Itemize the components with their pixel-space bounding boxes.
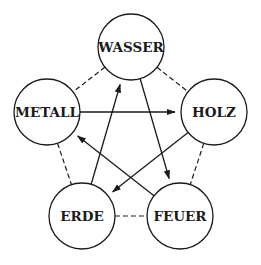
node-holz: HOLZ [181, 79, 247, 145]
five-elements-diagram: WASSERMETALLHOLZERDEFEUER [0, 0, 261, 265]
nodes: WASSERMETALLHOLZERDEFEUER [14, 14, 247, 249]
node-erde: ERDE [49, 183, 115, 249]
node-feuer: FEUER [147, 183, 213, 249]
node-label: METALL [15, 104, 80, 120]
node-label: ERDE [60, 208, 104, 224]
dashed-link-holz-feuer [190, 143, 203, 184]
node-label: WASSER [97, 39, 164, 55]
dashed-link-metall-erde [58, 143, 72, 184]
arrows [78, 79, 188, 196]
node-wasser: WASSER [97, 14, 164, 80]
node-label: FEUER [153, 208, 207, 224]
arrow-erde-to-wasser [91, 84, 120, 184]
node-metall: METALL [14, 79, 80, 145]
diagram-canvas: WASSERMETALLHOLZERDEFEUER [0, 0, 261, 265]
node-label: HOLZ [192, 104, 236, 120]
arrow-wasser-to-feuer [140, 79, 169, 179]
dashed-link-wasser-holz [157, 67, 188, 91]
dashed-link-wasser-metall [73, 67, 105, 92]
